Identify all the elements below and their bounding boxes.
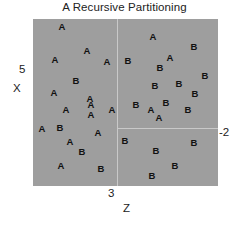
y-axis-title: X	[13, 82, 21, 94]
x-axis-tick-split: 3	[108, 187, 114, 199]
data-point-a: A	[59, 22, 66, 32]
data-point-a: A	[63, 105, 70, 115]
data-point-a: A	[109, 105, 116, 115]
data-point-a: A	[150, 32, 157, 42]
data-point-b: B	[172, 161, 179, 171]
data-point-a: A	[84, 46, 91, 56]
data-point-a: A	[156, 113, 163, 123]
data-point-b: B	[192, 89, 199, 99]
data-point-b: B	[122, 136, 129, 146]
data-point-a: A	[58, 161, 65, 171]
data-point-a: A	[104, 57, 111, 67]
partition-split-horizontal	[117, 128, 218, 129]
data-point-b: B	[185, 105, 192, 115]
data-point-a: A	[67, 137, 74, 147]
data-point-b: B	[79, 147, 86, 157]
data-point-b: B	[149, 171, 156, 181]
scatter-plot-area: AAAABAAAAAAABAABABABBABBBBBBBABABBBBB	[33, 19, 218, 186]
data-point-a: A	[88, 110, 95, 120]
data-point-b: B	[191, 138, 198, 148]
data-point-b: B	[157, 63, 164, 73]
data-point-a: A	[39, 124, 46, 134]
data-point-a: A	[51, 88, 58, 98]
data-point-a: A	[167, 53, 174, 63]
data-point-b: B	[153, 146, 160, 156]
data-point-a: A	[148, 105, 155, 115]
data-point-a: A	[95, 128, 102, 138]
data-point-b: B	[125, 56, 132, 66]
data-point-b: B	[152, 81, 159, 91]
data-point-b: B	[98, 164, 105, 174]
y-axis-tick-top: 5	[19, 63, 25, 75]
page-title: A Recursive Partitioning	[0, 1, 249, 13]
chart-figure: A Recursive Partitioning AAAABAAAAAAABAA…	[0, 0, 249, 225]
data-point-b: B	[57, 123, 64, 133]
data-point-a: A	[52, 55, 59, 65]
data-point-b: B	[191, 42, 198, 52]
data-point-b: B	[73, 76, 80, 86]
x-axis-title: Z	[123, 202, 130, 214]
partition-split-vertical	[117, 19, 118, 186]
data-point-b: B	[133, 100, 140, 110]
data-point-b: B	[163, 98, 170, 108]
data-point-b: B	[202, 71, 209, 81]
data-point-b: B	[176, 79, 183, 89]
right-axis-tick-split: -2	[219, 126, 229, 138]
